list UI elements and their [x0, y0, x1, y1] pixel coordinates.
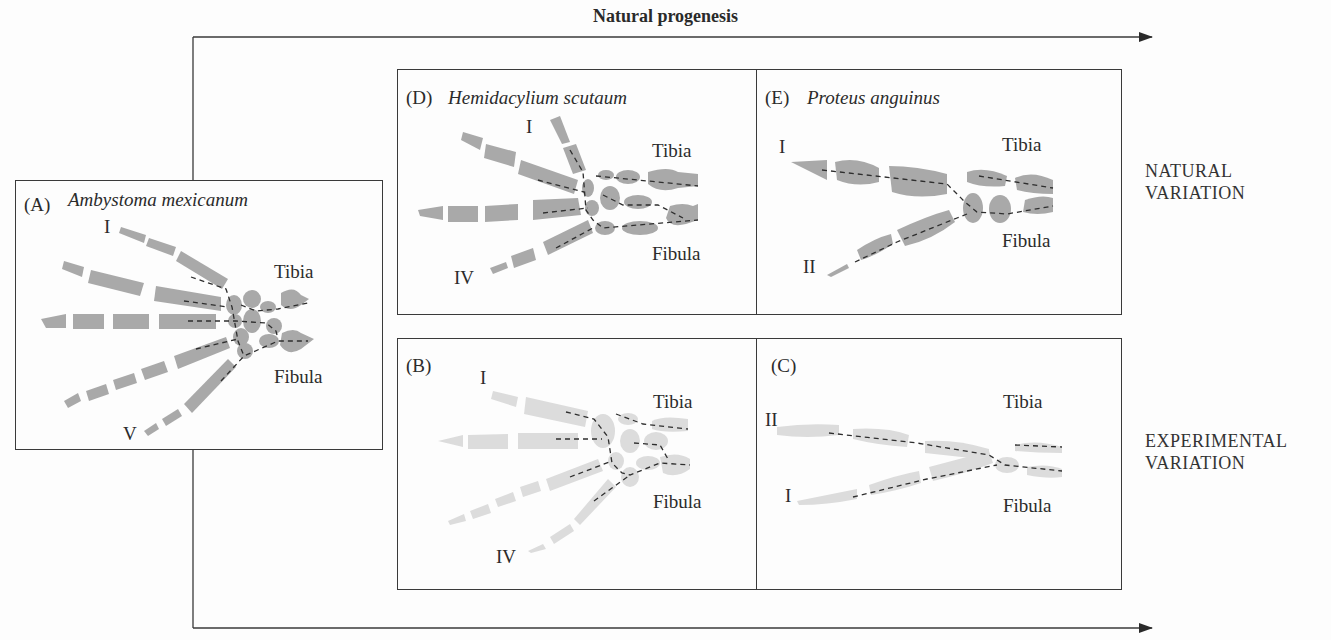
digit-label-bottom: IV [454, 267, 474, 289]
digit-label-top: I [526, 116, 532, 138]
fibula-label: Fibula [653, 491, 702, 513]
panel-a: (A) Ambystoma mexicanum I Tibia Fibula V [15, 180, 383, 450]
tibia-label: Tibia [274, 261, 313, 283]
digit-label-bottom: V [123, 423, 137, 445]
fibula-label: Fibula [1003, 495, 1052, 517]
digit-label-top: I [480, 367, 486, 389]
species-name: Ambystoma mexicanum [68, 189, 248, 211]
tibia-label: Tibia [653, 391, 692, 413]
row-label-natural: NATURAL VARIATION [1145, 160, 1245, 204]
limb-skeleton-b [398, 339, 757, 589]
species-name: Proteus anguinus [807, 87, 940, 109]
panel-letter: (D) [406, 87, 432, 109]
tibia-label: Tibia [1003, 391, 1042, 413]
limb-skeleton-c [757, 339, 1121, 589]
fibula-label: Fibula [1002, 230, 1051, 252]
digit-label-top: I [779, 136, 785, 158]
fibula-label: Fibula [274, 366, 323, 388]
digit-label-top: I [104, 216, 110, 238]
digit-label-bottom: IV [496, 546, 516, 568]
digit-label-bottom: II [803, 256, 816, 278]
tibia-label: Tibia [652, 140, 691, 162]
fibula-label: Fibula [652, 243, 701, 265]
panel-letter: (B) [406, 355, 431, 377]
panel-b: (B) I Tibia Fibula IV [397, 338, 758, 590]
panel-letter: (E) [765, 87, 789, 109]
digit-label-top: II [765, 409, 778, 431]
limb-skeleton-a [16, 181, 382, 449]
panel-d: (D) Hemidacylium scutaum I Tibia Fibula … [397, 69, 758, 315]
panel-e: (E) Proteus anguinus I Tibia Fibula II [756, 69, 1122, 315]
row-label-experimental: EXPERIMENTAL VARIATION [1145, 430, 1288, 474]
panel-letter: (C) [771, 355, 796, 377]
tibia-label: Tibia [1002, 134, 1041, 156]
digit-label-bottom: I [785, 485, 791, 507]
panel-c: (C) II Tibia Fibula I [756, 338, 1122, 590]
species-name: Hemidacylium scutaum [448, 87, 627, 109]
panel-letter: (A) [24, 194, 50, 216]
